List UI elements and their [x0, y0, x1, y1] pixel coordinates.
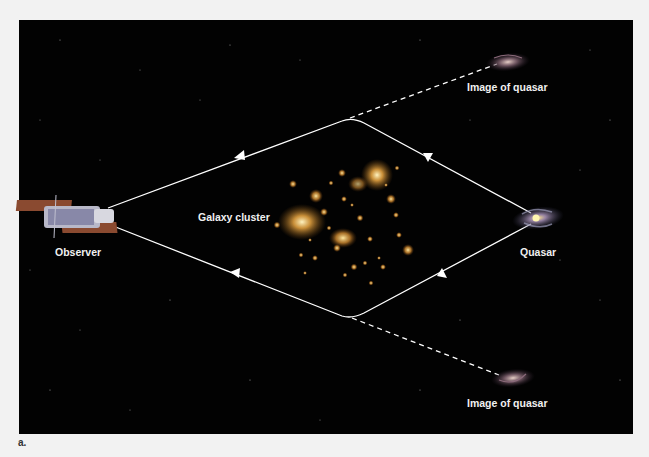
- star-field: [30, 39, 621, 420]
- spiral-galaxy-image-bottom-icon: [490, 367, 536, 390]
- arrow-left-upper-icon: [234, 150, 245, 160]
- arrow-left-upper-right-icon: [423, 153, 433, 162]
- spiral-galaxy-icon: [511, 203, 566, 232]
- image-of-quasar-bottom-label: Image of quasar: [467, 397, 548, 409]
- galaxy-cluster: [274, 159, 415, 286]
- observer-label: Observer: [55, 246, 101, 258]
- image-of-quasar-top-label: Image of quasar: [467, 81, 548, 93]
- telescope-icon: [16, 195, 118, 238]
- gravitational-lensing-diagram: [0, 0, 649, 457]
- galaxy-cluster-label: Galaxy cluster: [198, 211, 270, 223]
- quasar-label: Quasar: [520, 246, 556, 258]
- spiral-galaxy-image-top-icon: [485, 51, 531, 74]
- lower-dashed-sightline: [352, 318, 499, 375]
- lower-light-path: [108, 224, 531, 317]
- figure-panel-letter: a.: [18, 437, 26, 448]
- arrow-left-lower-icon: [230, 268, 240, 278]
